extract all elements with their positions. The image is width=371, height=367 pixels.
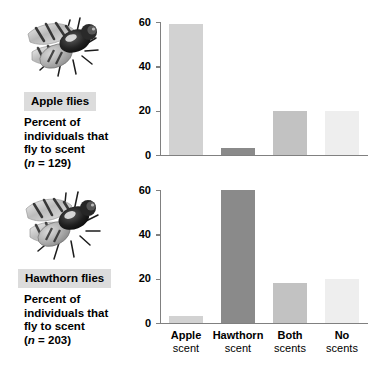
y-axis-tick-label: 0 [129, 150, 151, 161]
hawthorn-fly-photo [18, 187, 110, 265]
caption-line-1: Percent of [24, 293, 80, 305]
panel-apple-flies: Apple flies Percent of individuals that … [0, 0, 371, 183]
y-axis-tick [156, 111, 160, 112]
x-label-line-1: No [316, 329, 368, 342]
bar-chart-hawthorn-flies: 0204060ApplescentHawthornscentBothscents… [125, 183, 371, 367]
bar-no-scents [325, 111, 359, 155]
y-axis-tick-label: 60 [129, 185, 151, 196]
caption-line-3: fly to scent [24, 143, 85, 155]
x-label-line-2: scent [160, 342, 212, 355]
caption-line-2: individuals that [24, 307, 108, 319]
y-axis-tick-label: 40 [129, 229, 151, 240]
x-axis-label-both-scents: Bothscents [264, 329, 316, 354]
x-label-line-2: scents [264, 342, 316, 355]
y-axis-line [160, 190, 161, 323]
bar-chart-apple-flies: 0204060 [125, 0, 371, 183]
caption-sample-size: (n = 129) [24, 157, 71, 169]
species-label-hawthorn-flies: Hawthorn flies [18, 269, 111, 288]
y-axis-tick-label: 0 [129, 318, 151, 329]
y-axis-tick-label: 20 [129, 105, 151, 116]
y-axis-tick [156, 22, 160, 23]
y-axis-tick [156, 323, 160, 324]
bar-apple-scent [169, 24, 203, 155]
y-axis-tick-label: 20 [129, 273, 151, 284]
y-axis-tick [156, 234, 160, 235]
caption-sample-size: (n = 203) [24, 334, 71, 346]
panel-hawthorn-flies: Hawthorn flies Percent of individuals th… [0, 183, 371, 367]
x-axis-label-hawthorn-scent: Hawthornscent [212, 329, 264, 354]
x-label-line-1: Hawthorn [212, 329, 264, 342]
x-axis-label-apple-scent: Applescent [160, 329, 212, 354]
caption-line-1: Percent of [24, 116, 80, 128]
species-label-apple-flies: Apple flies [24, 92, 96, 111]
x-axis-line [160, 323, 368, 324]
apple-flies-caption: Percent of individuals that fly to scent… [24, 116, 108, 170]
y-axis-tick [156, 155, 160, 156]
caption-line-3: fly to scent [24, 320, 85, 332]
bar-hawthorn-scent [221, 148, 255, 155]
bar-both-scents [273, 283, 307, 323]
hawthorn-flies-left-column: Hawthorn flies Percent of individuals th… [10, 183, 122, 367]
bar-both-scents [273, 111, 307, 155]
x-label-line-1: Apple [160, 329, 212, 342]
y-axis-tick [156, 190, 160, 191]
apple-maggot-fly-photo [18, 8, 110, 86]
bar-hawthorn-scent [221, 190, 255, 323]
y-axis-tick-label: 60 [129, 17, 151, 28]
caption-line-2: individuals that [24, 130, 108, 142]
x-label-line-2: scents [316, 342, 368, 355]
y-axis-tick [156, 66, 160, 67]
x-axis-line [160, 155, 368, 156]
y-axis-line [160, 22, 161, 155]
apple-flies-left-column: Apple flies Percent of individuals that … [10, 0, 122, 183]
x-axis-label-no-scents: Noscents [316, 329, 368, 354]
y-axis-tick-label: 40 [129, 61, 151, 72]
hawthorn-flies-caption: Percent of individuals that fly to scent… [24, 293, 108, 347]
x-label-line-2: scent [212, 342, 264, 355]
bar-apple-scent [169, 316, 203, 323]
y-axis-tick [156, 279, 160, 280]
x-label-line-1: Both [264, 329, 316, 342]
bar-no-scents [325, 279, 359, 323]
